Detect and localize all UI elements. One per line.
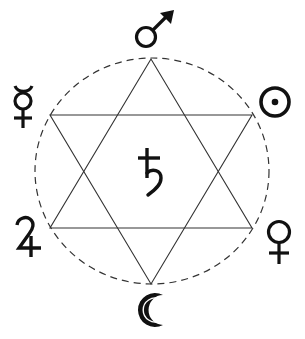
sun-icon [261, 88, 289, 116]
downward-triangle [50, 115, 252, 284]
venus-icon [269, 222, 290, 265]
saturn-icon [138, 148, 161, 195]
moon-icon [138, 293, 163, 327]
mars-icon [137, 10, 175, 47]
hexagram-diagram: Hexagram of the Seven Planets [0, 0, 305, 339]
mercury-icon [14, 86, 32, 128]
diagram-canvas [0, 0, 305, 339]
upward-triangle [50, 59, 252, 228]
jupiter-icon [17, 218, 41, 257]
